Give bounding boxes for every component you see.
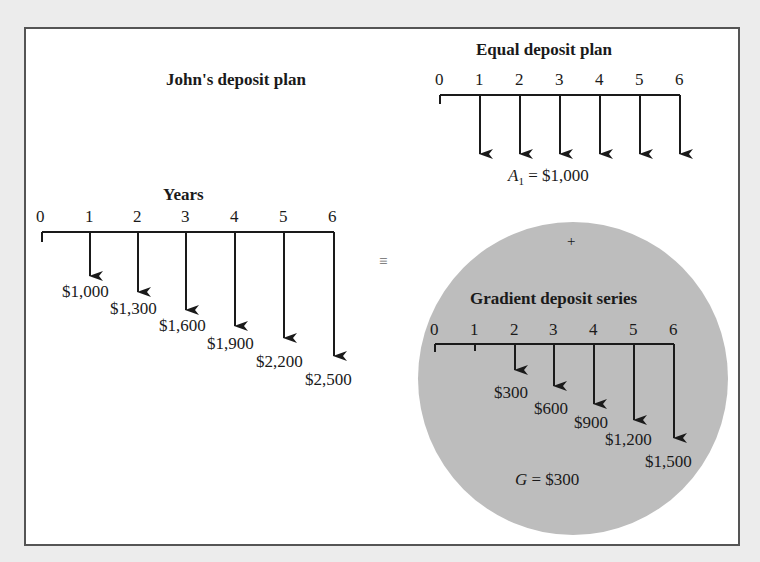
deposit-amount: $1,300: [110, 299, 157, 319]
deposit-amount: $1,500: [645, 452, 692, 472]
tick-label: 1: [475, 70, 484, 90]
equal-plan-title: Equal deposit plan: [476, 40, 612, 60]
years-axis-label: Years: [163, 185, 204, 205]
tick-label: 2: [515, 70, 524, 90]
deposit-amount: $900: [574, 413, 608, 433]
deposit-amount: $1,900: [207, 334, 254, 354]
formula-value: = $300: [527, 470, 579, 489]
tick-label: 3: [181, 207, 190, 227]
john-plan-title: John's deposit plan: [166, 70, 306, 90]
tick-label: 4: [589, 320, 598, 340]
tick-label: 0: [435, 70, 444, 90]
equal-timeline: [440, 95, 680, 154]
tick-label: 6: [669, 320, 678, 340]
tick-label: 2: [133, 207, 142, 227]
formula-value: = $1,000: [524, 166, 589, 185]
gradient-formula: G = $300: [515, 470, 579, 490]
tick-label: 5: [635, 70, 644, 90]
deposit-amount: $2,500: [305, 370, 352, 390]
formula-variable: G: [515, 470, 527, 489]
gradient-timeline: [435, 344, 674, 438]
tick-label: 5: [279, 207, 288, 227]
tick-label: 2: [510, 320, 519, 340]
deposit-amount: $2,200: [256, 352, 303, 372]
deposit-amount: $1,600: [159, 316, 206, 336]
formula-variable: A: [508, 166, 518, 185]
equivalence-symbol: ≡: [379, 253, 387, 270]
tick-label: 3: [549, 320, 558, 340]
equal-plan-formula: A1 = $1,000: [508, 166, 589, 187]
plus-symbol: +: [567, 233, 575, 250]
tick-label: 3: [555, 70, 564, 90]
tick-label: 4: [230, 207, 239, 227]
tick-label: 6: [328, 207, 337, 227]
tick-label: 1: [85, 207, 94, 227]
deposit-amount: $1,200: [605, 430, 652, 450]
cash-flow-arrows: [0, 0, 760, 562]
tick-label: 0: [36, 207, 45, 227]
tick-label: 0: [430, 320, 439, 340]
deposit-amount: $300: [494, 383, 528, 403]
tick-label: 1: [470, 320, 479, 340]
gradient-series-title: Gradient deposit series: [470, 289, 637, 309]
tick-label: 5: [629, 320, 638, 340]
tick-label: 6: [675, 70, 684, 90]
deposit-amount: $1,000: [62, 282, 109, 302]
tick-label: 4: [595, 70, 604, 90]
deposit-amount: $600: [534, 399, 568, 419]
